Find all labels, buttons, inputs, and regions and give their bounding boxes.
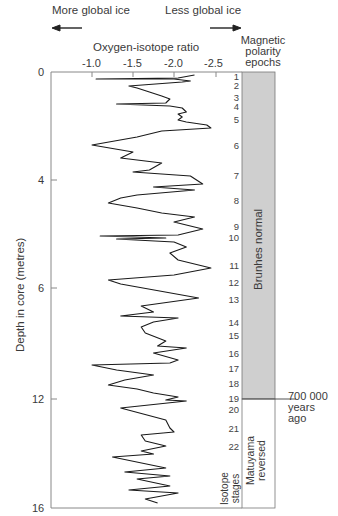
isotope-stage-number: 7 — [221, 170, 239, 181]
isotope-stage-number: 21 — [221, 423, 239, 434]
isotope-stage-number: 10 — [221, 232, 239, 243]
isotope-stages-label: Isotope stages — [220, 472, 241, 505]
boundary-annotation-line3: ago — [288, 413, 328, 424]
isotope-stage-number: 18 — [221, 378, 239, 389]
isotope-stages-label-line1: Isotope — [220, 472, 231, 505]
isotope-stage-number: 15 — [221, 330, 239, 341]
isotope-stage-number: 12 — [221, 277, 239, 288]
matuyama-label: Matuyama reversed — [245, 436, 267, 485]
isotope-stage-number: 5 — [221, 114, 239, 125]
isotope-stage-number: 22 — [221, 441, 239, 452]
isotope-stages-label-line2: stages — [231, 472, 242, 505]
isotope-stage-number: 14 — [221, 317, 239, 328]
isotope-stage-number: 4 — [221, 101, 239, 112]
chart-plot — [0, 0, 338, 516]
isotope-curve — [92, 75, 211, 503]
matuyama-label-line2: reversed — [256, 436, 267, 485]
isotope-stage-number: 6 — [221, 140, 239, 151]
isotope-stage-number: 16 — [221, 348, 239, 359]
isotope-stage-number: 2 — [221, 80, 239, 91]
y-ticks — [51, 180, 57, 399]
boundary-annotation: 700 000 years ago — [288, 391, 328, 424]
isotope-stage-number: 9 — [221, 221, 239, 232]
right-arrow-icon — [210, 25, 241, 31]
left-arrow-icon — [52, 25, 82, 31]
isotope-stage-number: 17 — [221, 363, 239, 374]
isotope-stage-number: 8 — [221, 195, 239, 206]
isotope-stage-number: 20 — [221, 404, 239, 415]
isotope-stage-number: 19 — [221, 393, 239, 404]
isotope-stage-number: 13 — [221, 294, 239, 305]
x-ticks — [92, 72, 216, 77]
brunhes-label: Brunhes normal — [252, 209, 264, 290]
isotope-stage-number: 11 — [221, 260, 239, 271]
